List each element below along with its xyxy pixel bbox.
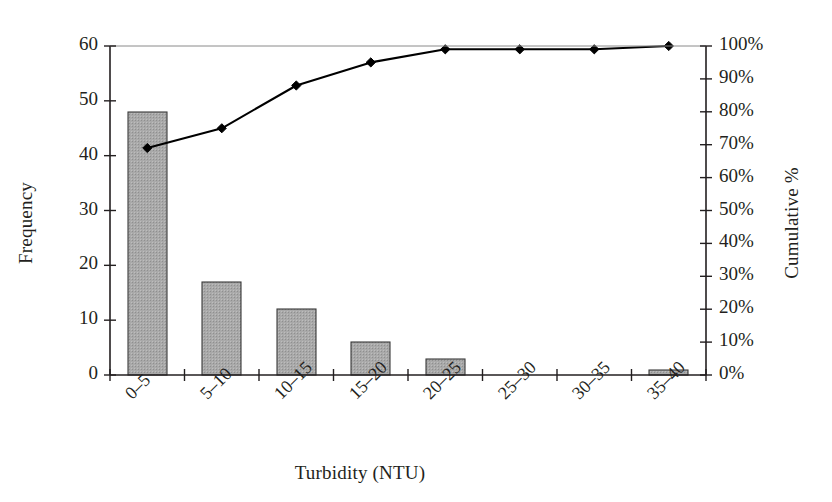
y-tick-label-left: 50 [52,88,98,110]
bar-5-10 [202,282,241,375]
y-tick-label-left: 0 [52,362,98,384]
y-tick-label-left: 20 [52,252,98,274]
y-tick-label-right: 40% [719,230,789,252]
y-tick-label-left: 10 [52,307,98,329]
y-tick-label-right: 60% [719,165,789,187]
y-tick-label-left: 30 [52,198,98,220]
y-tick-label-left: 40 [52,143,98,165]
y-tick-label-right: 80% [719,99,789,121]
cumulative-marker [217,124,226,133]
y-tick-label-right: 50% [719,198,789,220]
y-tick-label-right: 70% [719,132,789,154]
plot-area [0,0,832,502]
cumulative-line [147,46,669,148]
y-tick-label-left: 60 [52,33,98,55]
y-tick-label-right: 100% [719,33,789,55]
y-tick-label-right: 20% [719,296,789,318]
cumulative-marker [292,81,301,90]
y-tick-label-right: 10% [719,329,789,351]
y-tick-label-right: 0% [719,362,789,384]
y-tick-label-right: 30% [719,263,789,285]
y-tick-label-right: 90% [719,66,789,88]
pareto-chart: Frequency Cumulative % Turbidity (NTU) 0… [0,0,832,502]
cumulative-marker [366,58,375,67]
